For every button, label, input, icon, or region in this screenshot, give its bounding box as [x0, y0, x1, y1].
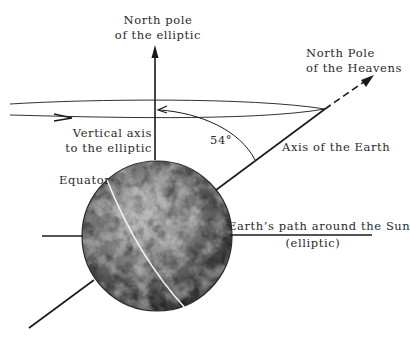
label-line: of the elliptic	[108, 28, 208, 43]
label-vertical-axis: Vertical axis to the elliptic	[50, 126, 152, 156]
label-earth-path: Earth’s path around the Sun (elliptic)	[228, 219, 398, 251]
label-axis-of-earth: Axis of the Earth	[282, 140, 390, 155]
up-arrow-icon	[152, 45, 159, 58]
label-north-pole-heavens: North Pole of the Heavens	[306, 46, 402, 76]
label-line: Vertical axis	[50, 126, 152, 141]
angle-arc	[158, 106, 255, 160]
label-angle: 54°	[210, 133, 232, 148]
label-line: Earth’s path around the Sun	[228, 219, 398, 234]
label-line: North Pole	[306, 46, 402, 61]
label-north-pole-ecliptic: North pole of the elliptic	[108, 13, 208, 43]
label-equator: Equator	[59, 173, 110, 188]
label-line: (elliptic)	[228, 236, 398, 251]
label-line: to the elliptic	[50, 141, 152, 156]
label-line: of the Heavens	[306, 61, 402, 76]
axis-arrow-icon	[361, 75, 374, 87]
vertical-axis	[152, 45, 159, 160]
arc-arrow-icon	[158, 106, 167, 113]
label-line: North pole	[108, 13, 208, 28]
orbit-direction-arrow-icon	[54, 114, 72, 121]
